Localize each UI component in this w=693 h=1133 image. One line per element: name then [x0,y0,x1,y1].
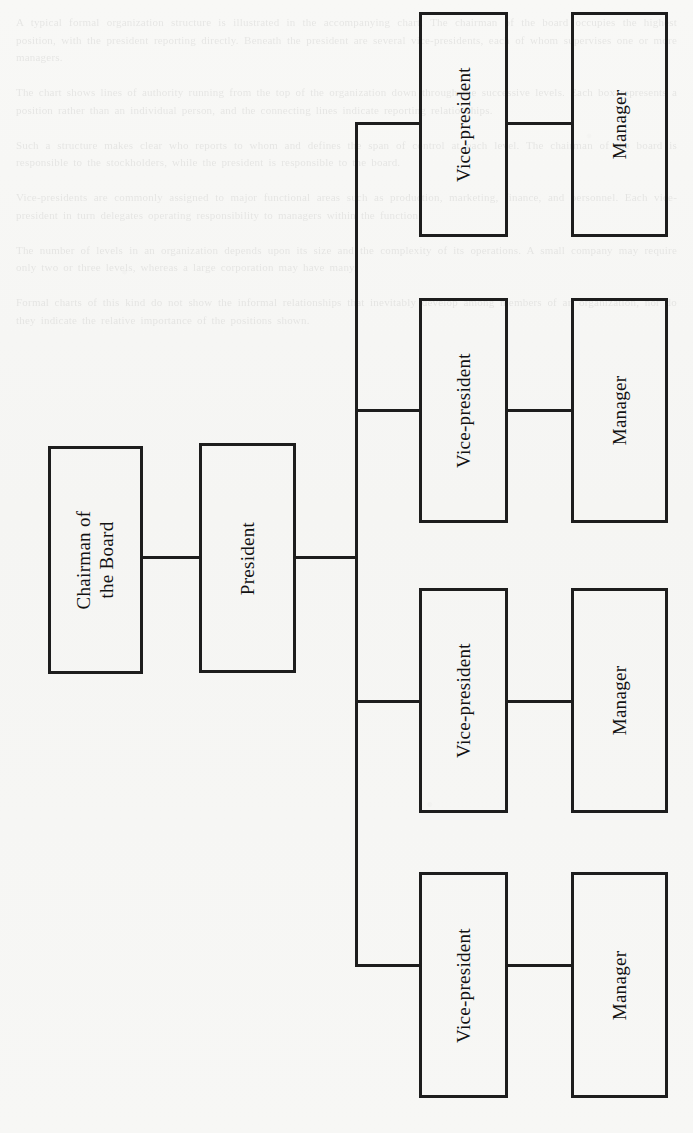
node-vice-president-4-label: Vice-president [452,928,475,1043]
node-vice-president-2[interactable]: Vice-president [419,298,508,523]
node-manager-4-label: Manager [608,950,631,1020]
node-chairman-of-the-board[interactable]: Chairman of the Board [48,446,143,674]
node-manager-1-label: Manager [608,90,631,160]
connector-president-trunk [294,556,358,559]
node-manager-4[interactable]: Manager [571,872,668,1098]
node-manager-3-label: Manager [608,666,631,736]
connector-vp2-mgr2 [506,409,574,412]
node-manager-1[interactable]: Manager [571,12,668,237]
node-president-label: President [236,521,259,594]
node-vice-president-3[interactable]: Vice-president [419,588,508,813]
connector-trunk-vp4 [355,964,421,967]
node-vice-president-3-label: Vice-president [452,643,475,758]
scanned-page: A typical formal organization structure … [0,0,693,1133]
node-chairman-label: Chairman of the Board [73,511,119,610]
connector-trunk-vertical [355,122,358,967]
connector-chairman-president [141,556,202,559]
connector-trunk-vp1 [355,122,421,125]
node-manager-2[interactable]: Manager [571,298,668,523]
node-president[interactable]: President [199,443,296,673]
node-vice-president-4[interactable]: Vice-president [419,872,508,1098]
connector-vp4-mgr4 [506,964,574,967]
node-manager-2-label: Manager [608,376,631,446]
connector-vp1-mgr1 [506,122,574,125]
node-vice-president-2-label: Vice-president [452,353,475,468]
connector-trunk-vp3 [355,700,421,703]
node-manager-3[interactable]: Manager [571,588,668,813]
node-vice-president-1-label: Vice-president [452,67,475,182]
node-vice-president-1[interactable]: Vice-president [419,12,508,237]
organization-chart: Chairman of the Board President Vice-pre… [0,0,693,1133]
connector-vp3-mgr3 [506,700,574,703]
connector-trunk-vp2 [355,409,421,412]
